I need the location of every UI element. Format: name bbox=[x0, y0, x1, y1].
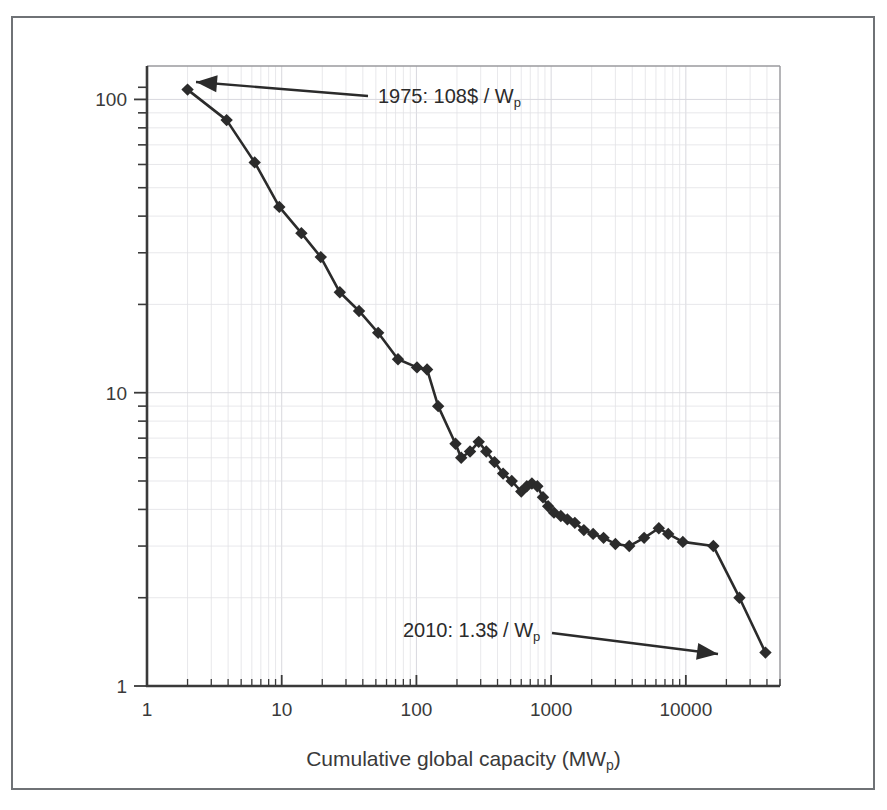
chart-plot-region: 110100100010000110100Cumulative global c… bbox=[0, 0, 887, 810]
x-tick-label: 10 bbox=[271, 699, 292, 720]
x-tick-label: 1000 bbox=[530, 699, 572, 720]
plot-background bbox=[147, 66, 780, 686]
x-axis-title: Cumulative global capacity (MWp) bbox=[306, 747, 621, 773]
experience-curve-chart: 110100100010000110100Cumulative global c… bbox=[0, 0, 887, 810]
annotation-label: 2010: 1.3$ / Wp bbox=[403, 619, 540, 644]
y-tick-label: 10 bbox=[106, 383, 127, 404]
annotation-label: 1975: 108$ / Wp bbox=[378, 85, 521, 110]
x-tick-label: 100 bbox=[401, 699, 433, 720]
figure-container: 110100100010000110100Cumulative global c… bbox=[0, 0, 887, 810]
x-tick-label: 1 bbox=[142, 699, 153, 720]
y-tick-label: 100 bbox=[95, 89, 127, 110]
x-tick-label: 10000 bbox=[659, 699, 712, 720]
y-tick-label: 1 bbox=[116, 676, 127, 697]
